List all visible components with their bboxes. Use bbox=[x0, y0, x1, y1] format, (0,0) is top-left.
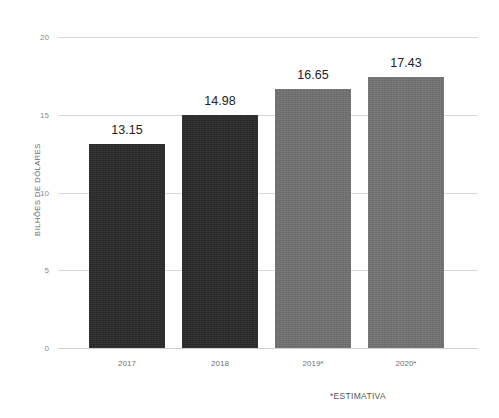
bar-group[interactable]: 16.652019* bbox=[275, 37, 351, 348]
bar[interactable] bbox=[368, 77, 444, 348]
bar-value-label: 16.65 bbox=[297, 68, 328, 82]
gridline-0: 0 bbox=[58, 348, 478, 349]
y-tick-label-0: 0 bbox=[45, 344, 49, 353]
bar[interactable] bbox=[89, 144, 165, 348]
y-tick-label-15: 15 bbox=[40, 110, 49, 119]
y-tick-label-5: 5 bbox=[45, 266, 49, 275]
bar-group[interactable]: 14.982018 bbox=[182, 37, 258, 348]
x-axis-category-label: 2019* bbox=[303, 359, 324, 368]
x-axis-category-label: 2017 bbox=[118, 359, 136, 368]
bar-group[interactable]: 13.152017 bbox=[89, 37, 165, 348]
bar-value-label: 17.43 bbox=[390, 56, 421, 70]
bar-value-label: 13.15 bbox=[111, 123, 142, 137]
bars-layer: 13.15201714.98201816.652019*17.432020* bbox=[58, 37, 478, 348]
footnote: *ESTIMATIVA bbox=[330, 391, 386, 401]
x-axis-category-label: 2020* bbox=[396, 359, 417, 368]
bar-value-label: 14.98 bbox=[204, 94, 235, 108]
y-tick-label-20: 20 bbox=[40, 33, 49, 42]
bar[interactable] bbox=[182, 115, 258, 348]
y-tick-label-10: 10 bbox=[40, 188, 49, 197]
bar[interactable] bbox=[275, 89, 351, 348]
bar-chart: BILHÕES DE DÓLARES 05101520 13.15201714.… bbox=[0, 0, 499, 418]
plot-area: 05101520 13.15201714.98201816.652019*17.… bbox=[58, 37, 478, 348]
bar-group[interactable]: 17.432020* bbox=[368, 37, 444, 348]
x-axis-category-label: 2018 bbox=[211, 359, 229, 368]
